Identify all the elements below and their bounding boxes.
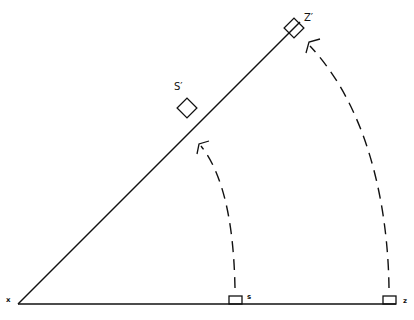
box-z <box>383 296 396 304</box>
point-label-z: z <box>403 298 407 305</box>
rotation-diagram <box>0 0 414 320</box>
vertex-label-x: x <box>6 297 11 304</box>
point-label-z-prime: Z′ <box>304 13 313 23</box>
box-s <box>229 296 242 304</box>
arc-z-to-z-prime <box>310 46 389 288</box>
point-label-s: s <box>247 294 251 301</box>
point-label-s-prime: S′ <box>174 82 183 92</box>
box-s-prime <box>177 98 197 118</box>
rotated-line <box>18 22 300 304</box>
arrow-head-z-prime-icon <box>306 39 320 53</box>
arc-s-to-s-prime <box>201 146 235 288</box>
